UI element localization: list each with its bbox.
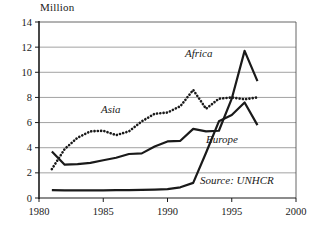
x-tick-marks [39, 198, 296, 202]
series-label-africa: Africa [185, 47, 213, 59]
svg-text:6: 6 [27, 117, 32, 128]
series-label-asia: Asia [101, 103, 121, 115]
data-series-group [52, 51, 258, 191]
svg-text:1980: 1980 [29, 206, 50, 217]
svg-text:8: 8 [27, 92, 32, 103]
svg-text:1985: 1985 [93, 206, 114, 217]
refugee-line-chart: Million 14121086420 19801985199019952000… [0, 0, 314, 226]
svg-text:1990: 1990 [157, 206, 178, 217]
source-credit: Source: UNHCR [200, 174, 274, 186]
chart-canvas: 14121086420 19801985199019952000 [0, 0, 314, 226]
svg-text:0: 0 [27, 193, 32, 204]
svg-text:4: 4 [27, 142, 33, 153]
y-tick-labels: 14121086420 [22, 17, 33, 204]
series-line-asia [52, 90, 258, 169]
series-label-europe: Europe [206, 133, 238, 145]
gridlines-group [39, 47, 296, 173]
svg-text:2000: 2000 [286, 206, 307, 217]
svg-text:10: 10 [22, 67, 33, 78]
svg-text:1995: 1995 [221, 206, 242, 217]
svg-text:2: 2 [27, 167, 32, 178]
svg-text:12: 12 [22, 42, 33, 53]
plot-frame [39, 21, 296, 199]
x-tick-labels: 19801985199019952000 [29, 206, 307, 217]
svg-text:14: 14 [22, 17, 33, 28]
